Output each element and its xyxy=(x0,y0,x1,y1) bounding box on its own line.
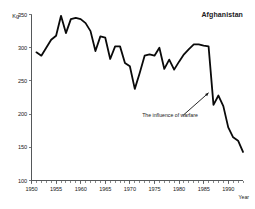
annotation-group: The influence of warfare xyxy=(142,93,208,118)
x-tick-label: 1960 xyxy=(75,186,87,192)
data-series-group xyxy=(36,16,243,152)
y-tick-label: 300 xyxy=(18,45,27,51)
chart-title: Afghanistan xyxy=(201,11,243,19)
x-tick-label: 1970 xyxy=(124,186,136,192)
y-tick-label: 250 xyxy=(18,78,27,84)
y-tick-label: 350 xyxy=(18,12,27,18)
data-line-afghanistan xyxy=(36,16,243,152)
y-tick-label: 200 xyxy=(18,111,27,117)
y-axis-tick-labels: 100150200250300350 xyxy=(18,12,27,184)
x-tick-label: 1985 xyxy=(198,186,210,192)
x-tick-label: 1955 xyxy=(50,186,62,192)
line-chart: 100150200250300350 195019551960196519701… xyxy=(0,0,255,209)
x-tick-label: 1980 xyxy=(173,186,185,192)
y-axis-label: Kg xyxy=(12,13,19,19)
y-tick-label: 150 xyxy=(18,144,27,150)
chart-figure: 100150200250300350 195019551960196519701… xyxy=(0,0,255,209)
x-tick-label: 1990 xyxy=(222,186,234,192)
x-tick-label: 1950 xyxy=(25,186,37,192)
annotation-text: The influence of warfare xyxy=(142,112,198,118)
x-tick-label: 1975 xyxy=(148,186,160,192)
x-axis-tick-labels: 195019551960196519701975198019851990 xyxy=(25,186,234,192)
y-tick-label: 100 xyxy=(18,178,27,184)
chart-axes xyxy=(29,15,243,184)
x-tick-label: 1965 xyxy=(99,186,111,192)
x-axis-label: Year xyxy=(239,194,250,200)
